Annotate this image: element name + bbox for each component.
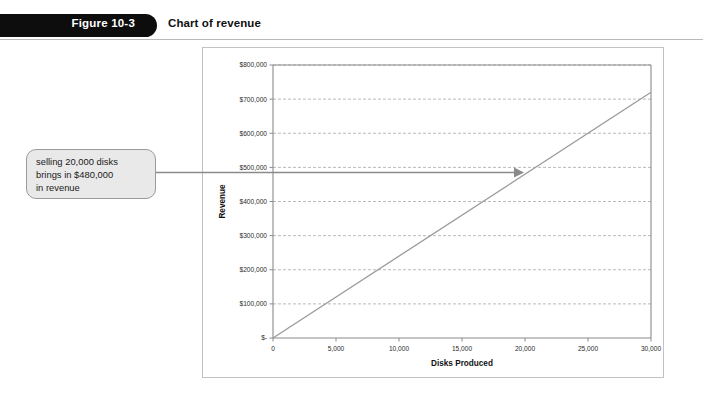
revenue-line-chart: $-$100,000$200,000$300,000$400,000$500,0… — [203, 48, 665, 379]
svg-text:30,000: 30,000 — [641, 345, 662, 352]
figure-header: Figure 10-3 Chart of revenue — [0, 14, 703, 38]
svg-text:20,000: 20,000 — [515, 345, 536, 352]
svg-text:$300,000: $300,000 — [239, 232, 267, 239]
figure-caption-label: Chart of revenue — [168, 17, 261, 29]
svg-text:$400,000: $400,000 — [239, 198, 267, 205]
svg-text:10,000: 10,000 — [389, 345, 410, 352]
svg-text:$-: $- — [261, 334, 267, 341]
chart-container: $-$100,000$200,000$300,000$400,000$500,0… — [202, 47, 664, 378]
svg-text:Revenue: Revenue — [218, 184, 227, 219]
figure-number-label: Figure 10-3 — [71, 17, 135, 29]
svg-text:$600,000: $600,000 — [239, 130, 267, 137]
svg-text:$800,000: $800,000 — [239, 61, 267, 68]
callout-box: selling 20,000 disks brings in $480,000 … — [26, 149, 156, 199]
svg-text:Disks Produced: Disks Produced — [431, 359, 493, 368]
callout-arrow — [156, 165, 526, 181]
svg-text:$700,000: $700,000 — [239, 96, 267, 103]
svg-text:$200,000: $200,000 — [239, 266, 267, 273]
figure-number-tab: Figure 10-3 — [0, 14, 157, 37]
svg-text:0: 0 — [271, 345, 275, 352]
arrow-right-icon — [514, 168, 524, 178]
svg-text:25,000: 25,000 — [578, 345, 599, 352]
callout-text: selling 20,000 disks brings in $480,000 … — [36, 155, 147, 195]
svg-text:15,000: 15,000 — [452, 345, 473, 352]
svg-text:$100,000: $100,000 — [239, 300, 267, 307]
header-divider — [0, 39, 703, 40]
svg-text:5,000: 5,000 — [328, 345, 345, 352]
